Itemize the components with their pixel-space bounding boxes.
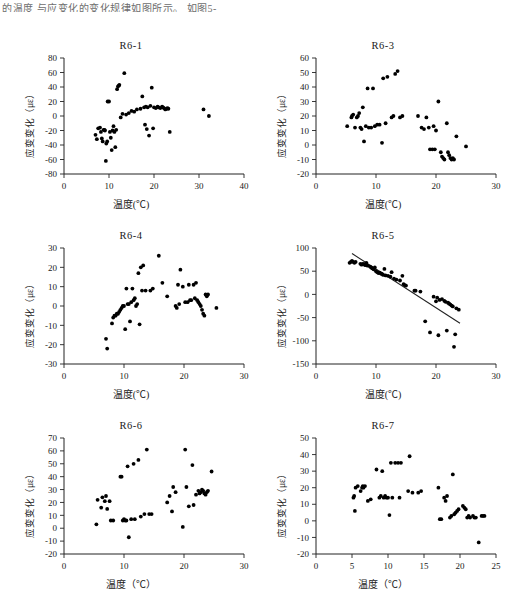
data-point (401, 274, 405, 278)
data-point (101, 495, 105, 499)
data-point (457, 507, 461, 511)
data-point (171, 485, 175, 489)
y-axis-label: 应变变化（με） (274, 89, 288, 158)
y-tick-label: 50 (48, 459, 58, 469)
y-tick-label: 0 (53, 523, 58, 533)
data-point (133, 517, 137, 521)
chart-panel-r6-3: R6-3-20-1001020304050600102030温度(℃)应变变化（… (258, 28, 508, 218)
y-tick-label: -50 (297, 313, 309, 323)
data-point (139, 515, 143, 519)
y-tick-label: 0 (305, 290, 310, 300)
data-point (351, 113, 355, 117)
data-point (141, 264, 145, 268)
data-point (144, 289, 148, 293)
data-point (396, 69, 400, 73)
data-point (215, 306, 219, 310)
data-point (414, 289, 418, 293)
y-tick-label: -10 (297, 533, 309, 543)
data-point (165, 294, 169, 298)
y-tick-label: -10 (297, 155, 309, 165)
data-point (354, 260, 358, 264)
data-point (380, 141, 384, 145)
x-tick-label: 0 (62, 371, 67, 381)
data-point (439, 517, 443, 521)
data-point (445, 121, 449, 125)
data-point (135, 108, 139, 112)
data-point (151, 287, 155, 291)
data-point (353, 509, 357, 513)
data-point (408, 454, 412, 458)
data-point (423, 319, 427, 323)
scatter-plot-area: -30-20-1001020300102030 (6, 218, 256, 408)
x-tick-label: 30 (492, 181, 502, 191)
x-tick-label: 10 (372, 181, 382, 191)
data-point (96, 498, 100, 502)
y-tick-label: 20 (300, 111, 310, 121)
data-point (433, 147, 437, 151)
data-point (404, 284, 408, 288)
y-tick-label: 70 (48, 433, 58, 443)
data-point (434, 299, 438, 303)
data-point (210, 470, 214, 474)
data-point (187, 504, 191, 508)
x-tick-label: 20 (150, 181, 160, 191)
data-point-group (345, 69, 468, 161)
y-tick-label: 0 (53, 111, 58, 121)
x-tick-label: 0 (314, 371, 319, 381)
x-tick-label: 10 (372, 371, 382, 381)
data-point (187, 283, 191, 287)
data-point (151, 126, 155, 130)
y-tick-label: 60 (48, 68, 58, 78)
data-point (207, 114, 211, 118)
data-point (445, 494, 449, 498)
data-point (177, 302, 181, 306)
y-tick-label: 50 (300, 68, 310, 78)
data-point (120, 475, 124, 479)
data-point (191, 463, 195, 467)
data-point (121, 112, 125, 116)
y-tick-label: 60 (300, 53, 310, 63)
y-tick-label: -20 (45, 549, 57, 559)
data-point (392, 114, 396, 118)
data-point (167, 107, 171, 111)
data-point-group (95, 448, 214, 539)
data-point (122, 71, 126, 75)
data-point (483, 514, 487, 518)
data-point (453, 332, 457, 336)
data-point (406, 489, 410, 493)
page-header-text: 的温度 与应变化的变化规律如图所示。 如图5- (2, 0, 302, 12)
data-point (369, 126, 373, 130)
data-point (444, 499, 448, 503)
data-point (416, 114, 420, 118)
data-point (439, 150, 443, 154)
data-point (138, 322, 142, 326)
data-point (386, 75, 390, 79)
data-point (117, 83, 121, 87)
data-point (179, 268, 183, 272)
chart-panel-r6-4: R6-4-30-20-1001020300102030温度(℃)应变变化（με） (6, 218, 256, 408)
x-tick-label: 10 (384, 561, 394, 571)
data-point (140, 289, 144, 293)
data-point (137, 458, 141, 462)
data-point (427, 126, 431, 130)
y-tick-label: -20 (45, 340, 57, 350)
data-point (95, 137, 99, 141)
data-point (356, 484, 360, 488)
chart-panel-r6-6: R6-6-20-100102030405060700102030温度（℃）应变变… (6, 408, 256, 594)
data-point (104, 159, 108, 163)
data-point (451, 473, 455, 477)
x-tick-label: 15 (420, 561, 430, 571)
y-tick-label: -20 (45, 126, 57, 136)
x-axis-label: 温度（℃） (258, 576, 508, 591)
data-point (128, 320, 132, 324)
data-point (375, 468, 379, 472)
y-tick-label: 30 (48, 485, 58, 495)
data-point (103, 129, 107, 133)
x-tick-label: 30 (240, 371, 250, 381)
y-tick-label: -30 (45, 359, 57, 369)
data-point (399, 461, 403, 465)
y-tick-label: 80 (48, 53, 58, 63)
data-point (398, 496, 402, 500)
scatter-plot-area: -150-100-500501000102030 (258, 218, 508, 408)
y-axis-label: 应变变化（με） (274, 279, 288, 348)
